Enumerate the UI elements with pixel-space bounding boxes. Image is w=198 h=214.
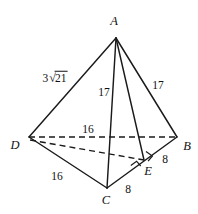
measure-label-AB: 17 <box>152 80 164 92</box>
radical-radicand: 21 <box>55 71 68 84</box>
vertex-label-B: B <box>183 140 191 153</box>
tetrahedron-svg <box>0 0 198 214</box>
vertex-label-E: E <box>144 165 152 178</box>
vertex-label-A: A <box>110 15 118 28</box>
edge-D-C <box>29 137 107 188</box>
measure-label-DC: 16 <box>51 171 63 183</box>
edge-A-B <box>116 38 177 137</box>
measure-label-DB: 16 <box>82 124 94 136</box>
measure-label-AD: 3√21 <box>43 72 68 85</box>
vertex-label-D: D <box>10 139 19 152</box>
edge-A-C <box>107 38 116 188</box>
geometry-figure: A B C D E 3√21 17 17 16 16 8 8 <box>0 0 198 214</box>
measure-label-EB: 8 <box>162 154 168 166</box>
measure-label-CE: 8 <box>125 184 131 196</box>
edge-A-E <box>116 38 144 160</box>
measure-label-AC: 17 <box>98 87 110 99</box>
edge-D-E-hidden <box>30 140 144 160</box>
radical-symbol-icon: √21 <box>48 72 67 85</box>
vertex-label-C: C <box>102 194 110 207</box>
